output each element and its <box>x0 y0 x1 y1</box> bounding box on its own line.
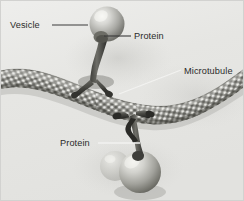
figure-container: Vesicle Protein Microtubule Protein <box>0 0 244 201</box>
microtubule-illustration: Vesicle Protein Microtubule Protein <box>0 0 244 201</box>
upper-vesicle-contact-shadow <box>78 75 114 89</box>
lower-motor-vesicle-junction <box>132 151 144 161</box>
label-vesicle: Vesicle <box>10 20 40 30</box>
label-protein-bottom: Protein <box>60 138 90 148</box>
lower-vesicle-secondary-highlight <box>105 155 116 163</box>
label-microtubule: Microtubule <box>184 66 233 76</box>
label-protein-top: Protein <box>134 31 164 41</box>
